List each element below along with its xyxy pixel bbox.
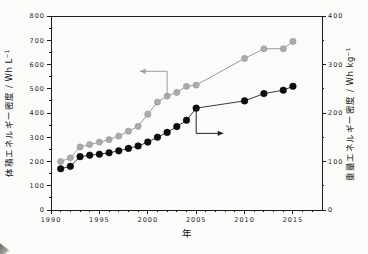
gravimetric-arrow-head: [218, 131, 224, 136]
y-right-tick-label: 200: [328, 109, 343, 117]
y-left-tick-label: 100: [30, 182, 45, 190]
volumetric-energy-density-point: [261, 46, 267, 52]
energy-density-chart: 199019952000200520102015 010020030040050…: [0, 0, 368, 254]
gravimetric-energy-density-point: [77, 153, 84, 160]
gravimetric-energy-density-series: [57, 83, 296, 172]
volumetric-energy-density-point: [116, 133, 122, 139]
volumetric-energy-density-point: [77, 144, 83, 150]
x-axis: 199019952000200520102015: [41, 210, 313, 224]
volumetric-energy-density-series: [58, 38, 296, 164]
volumetric-energy-density-point: [67, 155, 73, 161]
volumetric-energy-density-point: [193, 82, 199, 88]
volumetric-energy-density-point: [125, 128, 131, 134]
gravimetric-energy-density-point: [67, 163, 74, 170]
x-tick-label: 2000: [138, 216, 159, 224]
x-axis-title: 年: [182, 228, 192, 239]
gravimetric-energy-density-point: [96, 151, 103, 158]
volumetric-energy-density-point: [145, 111, 151, 117]
gravimetric-energy-density-point: [174, 123, 181, 130]
x-tick-label: 1995: [89, 216, 110, 224]
gravimetric-energy-density-point: [144, 139, 151, 146]
gravimetric-energy-density-point: [135, 143, 142, 150]
gravimetric-energy-density-point: [57, 165, 64, 172]
volumetric-energy-density-point: [135, 123, 141, 129]
volumetric-energy-density-point: [106, 137, 112, 143]
gravimetric-energy-density-point: [115, 148, 122, 155]
volumetric-energy-density-point: [183, 83, 189, 89]
left-axis-title: 体積エネルギー密度 / Wh L⁻¹: [4, 49, 14, 176]
gravimetric-energy-density-point: [106, 149, 113, 156]
volumetric-energy-density-point: [241, 55, 247, 61]
gravimetric-energy-density-point: [290, 83, 297, 90]
volumetric-energy-density-point: [280, 46, 286, 52]
y-left-tick-label: 500: [30, 85, 45, 93]
y-left-tick-label: 700: [30, 37, 45, 45]
y-right-tick-label: 400: [328, 12, 343, 20]
x-tick-label: 2015: [283, 216, 304, 224]
volumetric-energy-density-point: [87, 141, 93, 147]
volumetric-arrow-line: [140, 71, 167, 96]
right-axis-title: 重量エネルギー密度 / Wh kg⁻¹: [345, 47, 355, 180]
right-y-axis: 0100200300400: [322, 12, 343, 214]
gravimetric-energy-density-point: [280, 87, 287, 94]
gravimetric-energy-density-point: [261, 90, 268, 97]
y-left-tick-label: 0: [40, 206, 45, 214]
volumetric-arrow: [140, 69, 167, 96]
y-right-tick-label: 300: [328, 61, 343, 69]
x-tick-label: 2010: [234, 216, 255, 224]
y-left-tick-label: 200: [30, 158, 45, 166]
plot-border: [51, 16, 322, 210]
energy-density-figure: 199019952000200520102015 010020030040050…: [0, 0, 368, 254]
data-series: [57, 38, 296, 172]
plot-frame: [51, 16, 322, 210]
volumetric-energy-density-point: [174, 89, 180, 95]
gravimetric-arrow-line: [196, 108, 223, 133]
annotation-arrows: [140, 69, 223, 136]
volumetric-energy-density-point: [58, 158, 64, 164]
gravimetric-energy-density-point: [86, 152, 93, 159]
gravimetric-energy-density-point: [241, 98, 248, 105]
volumetric-energy-density-point: [290, 38, 296, 44]
gravimetric-energy-density-point: [125, 145, 132, 152]
gravimetric-arrow: [196, 108, 223, 136]
x-tick-label: 1990: [41, 216, 62, 224]
gravimetric-energy-density-point: [183, 117, 190, 124]
volumetric-energy-density-point: [154, 99, 160, 105]
y-right-tick-label: 0: [328, 206, 333, 214]
gravimetric-energy-density-point: [154, 134, 161, 141]
y-left-tick-label: 400: [30, 109, 45, 117]
volumetric-energy-density-point: [96, 139, 102, 145]
y-left-tick-label: 600: [30, 61, 45, 69]
volumetric-arrow-head: [140, 69, 146, 74]
y-left-tick-label: 300: [30, 134, 45, 142]
x-tick-label: 2005: [186, 216, 207, 224]
y-right-tick-label: 100: [328, 158, 343, 166]
left-y-axis: 0100200300400500600700800: [30, 12, 51, 214]
volumetric-energy-density-line: [61, 41, 293, 161]
gravimetric-energy-density-point: [164, 129, 171, 136]
y-left-tick-label: 800: [30, 12, 45, 20]
